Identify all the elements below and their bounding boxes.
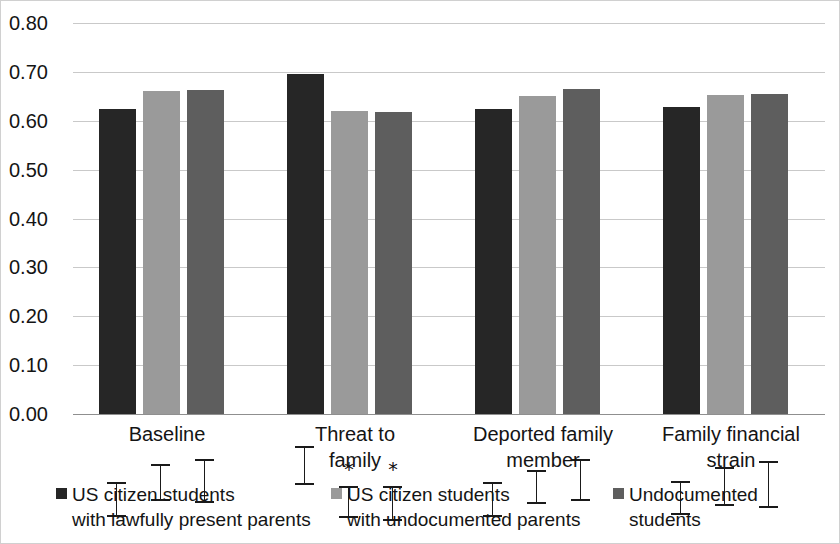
bar[interactable] (143, 91, 180, 414)
bar[interactable] (751, 94, 788, 414)
y-axis-tick-label: 0.70 (9, 60, 67, 83)
bar-group (449, 23, 637, 414)
bar-group (637, 23, 825, 414)
bar-chart: 0.800.700.600.500.400.300.200.100.00 ** … (0, 0, 840, 544)
bar[interactable] (663, 107, 700, 414)
y-axis-tick-label: 0.30 (9, 256, 67, 279)
x-axis-category-label: Baseline (73, 421, 261, 447)
legend-item[interactable]: US citizen students with lawfully presen… (56, 482, 311, 532)
bar[interactable] (287, 74, 324, 414)
y-axis-tick-label: 0.40 (9, 207, 67, 230)
bar[interactable] (331, 111, 368, 414)
x-axis-category-labels: BaselineThreat to familyDeported family … (73, 421, 825, 477)
legend-swatch-icon (331, 488, 342, 499)
y-axis-tick-label: 0.10 (9, 354, 67, 377)
bar[interactable] (187, 90, 224, 414)
bar-group (73, 23, 261, 414)
bar[interactable] (563, 89, 600, 414)
x-axis-category-label: Deported family member (449, 421, 637, 473)
plot-area: ** (73, 23, 825, 414)
bar[interactable] (375, 112, 412, 414)
x-axis-category-label: Family financial strain (637, 421, 825, 473)
y-axis-tick-label: 0.50 (9, 158, 67, 181)
bar[interactable] (519, 96, 556, 414)
y-axis-tick-label: 0.00 (9, 403, 67, 426)
bar[interactable] (707, 95, 744, 414)
legend-item[interactable]: Undocumented students (613, 482, 758, 532)
y-axis-tick-label: 0.80 (9, 12, 67, 35)
y-axis-tick-label: 0.60 (9, 109, 67, 132)
legend-label: Undocumented students (629, 482, 758, 532)
legend-label: US citizen students with undocumented pa… (347, 482, 580, 532)
legend-swatch-icon (56, 488, 67, 499)
bar-group: ** (261, 23, 449, 414)
legend-item[interactable]: US citizen students with undocumented pa… (331, 482, 580, 532)
legend-label: US citizen students with lawfully presen… (72, 482, 311, 532)
bar[interactable] (99, 109, 136, 414)
x-axis-line (73, 414, 825, 415)
chart-legend: US citizen students with lawfully presen… (1, 482, 840, 542)
bar[interactable] (475, 109, 512, 414)
legend-swatch-icon (613, 488, 624, 499)
y-axis-tick-label: 0.20 (9, 305, 67, 328)
x-axis-category-label: Threat to family (261, 421, 449, 473)
